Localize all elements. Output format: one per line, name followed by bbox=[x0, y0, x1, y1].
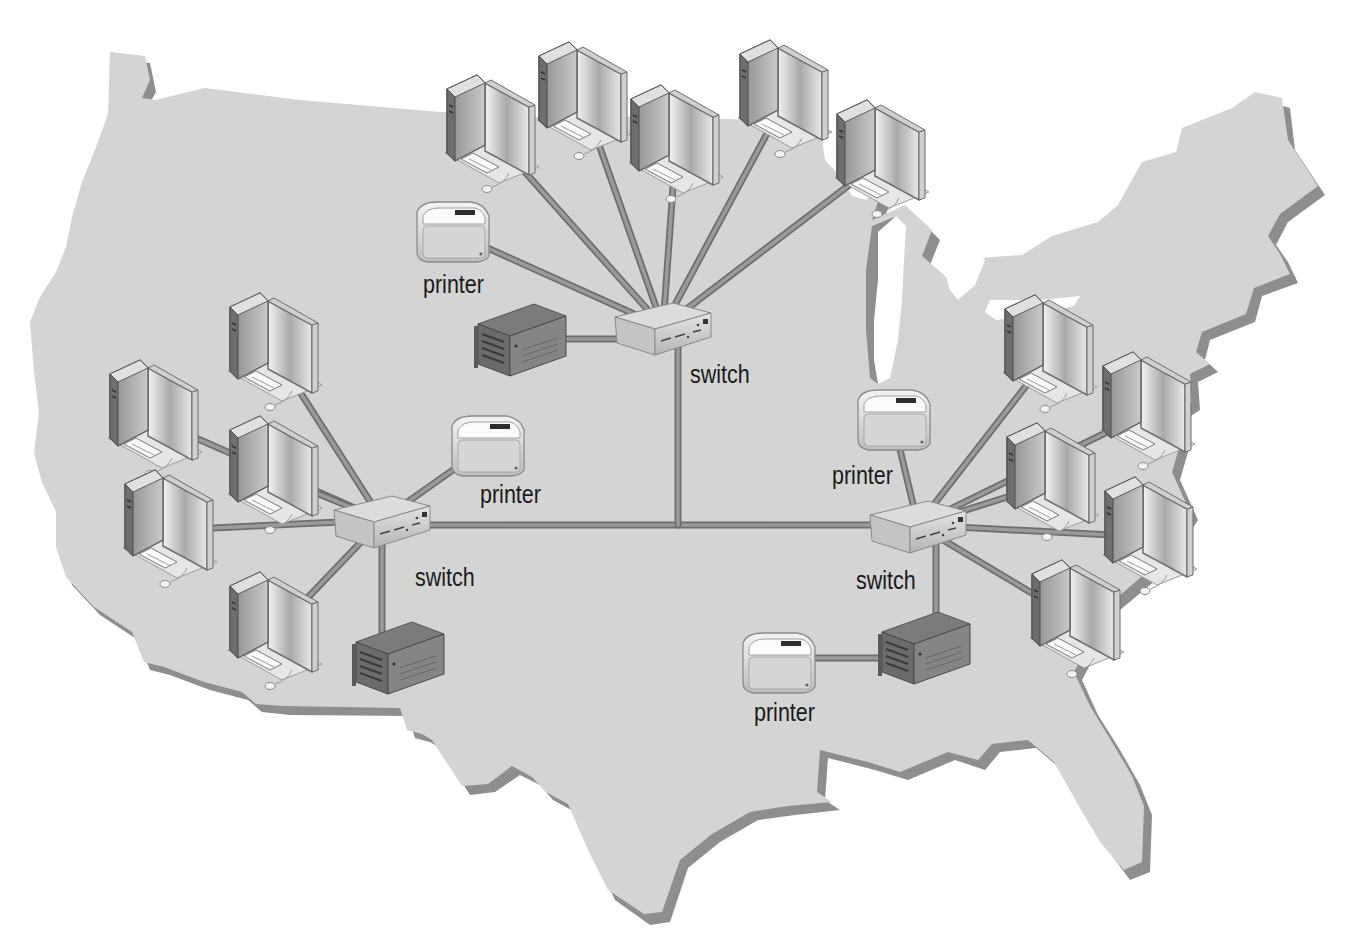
printer-label: printer bbox=[480, 480, 541, 509]
printer-icon bbox=[417, 202, 489, 262]
printer-icon bbox=[452, 416, 524, 476]
network-diagram bbox=[0, 0, 1361, 939]
printer-label: printer bbox=[423, 270, 484, 299]
switch-label: switch bbox=[690, 360, 750, 389]
switch-label: switch bbox=[856, 566, 916, 595]
switch-label: switch bbox=[415, 563, 475, 592]
printer-label: printer bbox=[754, 698, 815, 727]
printer-label: printer bbox=[832, 461, 893, 490]
printer-icon bbox=[743, 633, 815, 693]
printer-icon bbox=[858, 390, 930, 450]
